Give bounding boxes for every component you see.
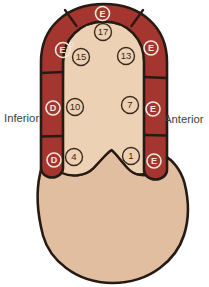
marker-apex-letter: E [99, 9, 105, 19]
diagram-canvas: 17 15 13 10 7 4 1 E [0, 0, 209, 287]
marker-mid-inferior-letter: D [50, 103, 57, 113]
inferior-label: Inferior [4, 112, 39, 124]
division-mid-anterior [144, 77, 167, 78]
marker-basal-inferior-letter: D [51, 155, 58, 165]
marker-apical-inferior-superscript: D [69, 41, 74, 48]
segment-15-label: 15 [76, 51, 87, 62]
division-mid-inferior [41, 72, 63, 73]
division-basal-inferior [41, 136, 63, 137]
segment-13-label: 13 [121, 50, 132, 61]
anterior-label: Anterior [164, 113, 204, 125]
heart-segment-diagram: 17 15 13 10 7 4 1 E [0, 0, 209, 287]
segment-10-label: 10 [70, 101, 81, 112]
segment-17-label: 17 [98, 26, 109, 37]
marker-basal-anterior-letter: E [151, 156, 157, 166]
division-basal-anterior [144, 135, 167, 136]
segment-7-label: 7 [127, 99, 132, 110]
segment-4-label: 4 [71, 151, 76, 162]
marker-apical-inferior-letter: E [59, 45, 65, 55]
marker-mid-anterior-letter: E [150, 104, 156, 114]
segment-1-label: 1 [128, 150, 133, 161]
marker-apical-anterior-letter: E [148, 43, 154, 53]
